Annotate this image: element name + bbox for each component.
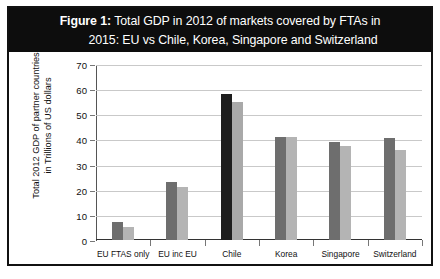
figure-title-line-1: Figure 1: Total GDP in 2012 of markets c… [19, 12, 421, 31]
bar-group: Switzerland [368, 64, 422, 240]
chart-axes: 010203040506070EU FTAS onlyEU inc EUChil… [96, 65, 422, 240]
bar [221, 94, 232, 240]
bar [232, 102, 243, 240]
y-axis-tick [90, 115, 95, 116]
bar [166, 182, 177, 240]
bar-group: Singapore [313, 64, 367, 240]
bar-group: EU FTAS only [96, 64, 150, 240]
bar [286, 137, 297, 240]
bar-group: Chile [205, 64, 259, 240]
y-axis-tick-label: 30 [76, 160, 87, 171]
x-axis-tick [150, 240, 151, 246]
y-axis-tick [90, 65, 95, 66]
bar-group: EU inc EU [150, 64, 204, 240]
y-axis-tick-label: 70 [76, 60, 87, 71]
bar-group: Korea [259, 64, 313, 240]
y-axis-tick-label: 60 [76, 85, 87, 96]
y-axis-tick [90, 216, 95, 217]
y-axis-tick [90, 140, 95, 141]
y-axis-title-line-1: Total 2012 GDP of partner countries [31, 51, 43, 201]
figure-title-line-2: 2015: EU vs Chile, Korea, Singapore and … [19, 31, 421, 50]
figure-title-text-1: Total GDP in 2012 of markets covered by … [114, 14, 380, 28]
x-axis-tick [259, 240, 260, 246]
y-axis-tick-label: 20 [76, 185, 87, 196]
bar [123, 227, 134, 240]
x-axis-tick [422, 240, 423, 246]
y-axis-title-line-2: in Trillions of US dollars [42, 51, 54, 201]
figure-title-banner: Figure 1: Total GDP in 2012 of markets c… [9, 8, 431, 52]
y-axis-tick [90, 241, 95, 242]
plot-area: Total 2012 GDP of partner countries in T… [9, 52, 431, 264]
y-axis-tick [90, 191, 95, 192]
bar [329, 142, 340, 240]
bar [275, 137, 286, 240]
bar [177, 187, 188, 240]
x-axis-tick [368, 240, 369, 246]
x-axis-tick-label: Switzerland [352, 249, 438, 259]
figure-label: Figure 1: [60, 14, 111, 28]
x-axis-tick [313, 240, 314, 246]
bar [340, 146, 351, 240]
y-axis-tick-label: 50 [76, 110, 87, 121]
y-axis-tick-label: 40 [76, 135, 87, 146]
figure-container: Figure 1: Total GDP in 2012 of markets c… [0, 0, 440, 279]
y-axis-tick [90, 166, 95, 167]
y-axis-tick-label: 0 [82, 236, 87, 247]
bar [395, 150, 406, 241]
page-cutoff-text [9, 270, 433, 279]
y-axis-tick-label: 10 [76, 210, 87, 221]
x-axis-tick [205, 240, 206, 246]
y-axis-tick [90, 90, 95, 91]
bar [112, 222, 123, 240]
y-axis-title: Total 2012 GDP of partner countries in T… [31, 51, 54, 201]
bar [384, 138, 395, 240]
